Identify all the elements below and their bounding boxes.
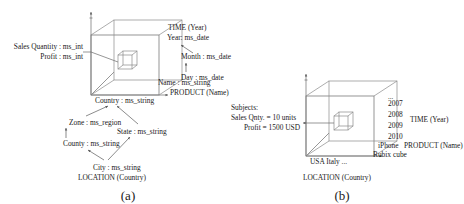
olap-cube-figure: Sales Quantity : ms_int Profit : ms_int … [0,0,464,204]
time-tick-2008: 2008 [388,110,403,119]
location-zone-country-arrow [86,106,108,116]
time-level-year-a: Year: ms_date [167,33,210,42]
subject-profit: Profit = 1500 USD [244,123,301,132]
measure-sales-quantity: Sales Quantity : ms_int [14,42,84,51]
product-level-name-a: Name : ms_string [158,78,211,87]
location-level-county-a: County : ms_string [63,139,120,148]
time-tick-2009: 2009 [388,121,403,130]
subject-sales-quantity: Sales Qnty. = 10 units [231,113,296,122]
caption-b: (b) [334,188,349,203]
panel-b: Subjects: Sales Qnty. = 10 units Profit … [231,74,463,203]
time-level-month-a: Month : ms_date [181,52,232,61]
caption-a: (a) [121,188,135,203]
panel-a-cell [118,51,137,69]
location-level-country-a: Country : ms_string [95,96,154,105]
product-dimension-title-a: PRODUCT (Name) [170,88,229,97]
panel-a-measure-leader [83,52,118,62]
measure-profit: Profit : ms_int [40,52,84,61]
time-tick-2010: 2010 [388,132,403,141]
product-axis-title-b: PRODUCT (Name) [404,141,463,150]
location-level-state-a: State : ms_string [117,127,167,136]
location-axis-title-b: LOCATION (Country) [303,173,371,182]
time-dimension-title-a: TIME (Year) [168,23,207,32]
panel-b-depth-axis [306,133,329,156]
product-tick-iphone: iPhone [378,141,399,150]
time-tick-2007: 2007 [388,99,403,108]
panel-a-depth-axis [91,72,114,95]
location-level-zone-a: Zone : ms_region [69,118,121,127]
location-level-city-a: City : ms_string [93,163,141,172]
location-city-county-arrow [88,150,104,160]
panel-b-cell [334,112,353,130]
panel-a: Sales Quantity : ms_int Profit : ms_int … [14,12,232,203]
time-axis-title-b: TIME (Year) [410,115,449,124]
location-dimension-title-a: LOCATION (Country) [78,173,146,182]
subjects-heading: Subjects: [231,103,258,112]
figure-container: Sales Quantity : ms_int Profit : ms_int … [0,0,464,204]
location-ticks-b: USA Italy ... [310,157,347,166]
product-tick-rubix-cube: Rubix cube [373,150,408,159]
